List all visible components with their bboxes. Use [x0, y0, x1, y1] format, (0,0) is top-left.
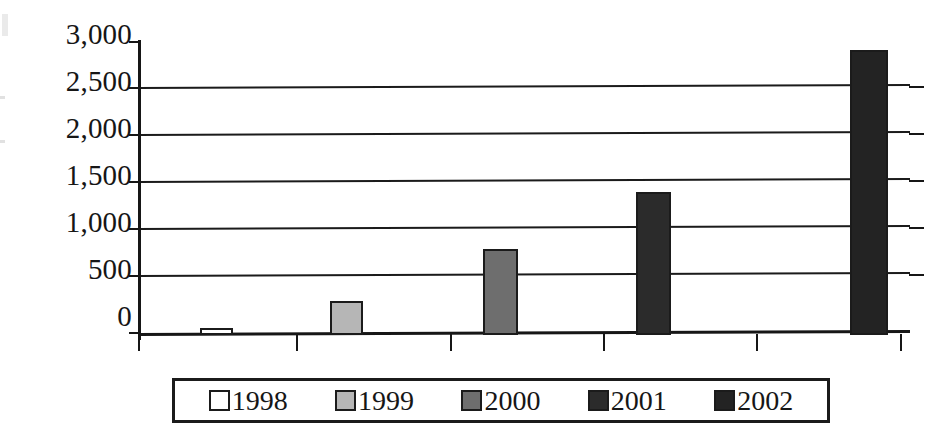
bar-2001	[636, 192, 671, 335]
y-tick-2000	[129, 134, 141, 136]
legend-swatch-1999	[335, 390, 356, 411]
bar-chart: 3,000 2,500 2,000 1,500 1,000 500 0	[0, 0, 925, 442]
legend-swatch-2000	[461, 390, 482, 411]
legend-label-1998: 1998	[232, 387, 288, 415]
legend-item-1998: 1998	[209, 387, 288, 415]
legend-item-1999: 1999	[335, 387, 414, 415]
legend-swatch-2001	[588, 390, 609, 411]
x-tick-1	[296, 334, 298, 351]
right-tick-1500	[909, 180, 924, 182]
y-tick-3000	[129, 41, 141, 43]
y-tick-2500	[129, 87, 141, 89]
right-tick-500	[909, 274, 924, 276]
gridline-1000	[138, 225, 910, 230]
gridline-500	[138, 272, 910, 277]
right-tick-2500	[909, 86, 924, 88]
x-tick-4	[756, 334, 758, 351]
y-tick-1000	[129, 228, 141, 230]
gridline-2500	[138, 84, 910, 89]
legend-swatch-1998	[209, 390, 230, 411]
y-axis-tick-label: 1,000	[10, 208, 132, 237]
x-tick-2	[450, 334, 452, 351]
bar-2000	[483, 249, 518, 335]
gridline-1500	[138, 178, 910, 183]
legend-item-2000: 2000	[461, 387, 540, 415]
legend-label-2001: 2001	[611, 387, 667, 415]
y-axis-tick-label: 2,500	[10, 67, 132, 96]
y-axis-tick-label: 3,000	[10, 20, 132, 49]
plot-area	[138, 40, 910, 336]
scan-artifact	[0, 140, 5, 143]
y-axis-tick-label: 2,000	[10, 114, 132, 143]
legend-swatch-2002	[714, 390, 735, 411]
bar-1998	[200, 328, 233, 335]
right-tick-1000	[909, 227, 924, 229]
legend-label-2002: 2002	[737, 387, 793, 415]
bar-2002	[850, 50, 888, 335]
y-axis-line	[138, 40, 141, 340]
legend-item-2001: 2001	[588, 387, 667, 415]
y-tick-500	[129, 275, 141, 277]
y-axis-tick-label: 500	[10, 255, 132, 284]
legend-label-2000: 2000	[484, 387, 540, 415]
scan-artifact	[0, 96, 5, 99]
scan-artifact	[2, 14, 8, 36]
legend-item-2002: 2002	[714, 387, 793, 415]
right-tick-2000	[909, 133, 924, 135]
x-tick-3	[603, 334, 605, 351]
x-axis-line	[138, 330, 910, 336]
gridline-2000	[138, 131, 910, 136]
legend-label-1999: 1999	[358, 387, 414, 415]
chart-legend: 1998 1999 2000 2001 2002	[172, 378, 830, 423]
y-tick-1500	[129, 181, 141, 183]
x-tick-end	[900, 334, 902, 351]
y-axis-tick-label: 0	[10, 302, 132, 331]
bar-1999	[330, 301, 363, 335]
y-axis-tick-label: 1,500	[10, 161, 132, 190]
y-axis-tick-labels: 3,000 2,500 2,000 1,500 1,000 500 0	[10, 20, 132, 350]
x-tick-start	[138, 334, 140, 351]
